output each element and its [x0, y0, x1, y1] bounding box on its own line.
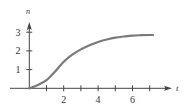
y-tick-label: 3	[16, 27, 21, 38]
x-tick-label: 6	[130, 94, 135, 105]
x-tick-label: 2	[61, 94, 66, 105]
y-tick-label: 1	[16, 64, 21, 75]
y-axis-label: n	[26, 7, 30, 16]
x-axis-label: t	[176, 83, 179, 93]
y-tick-label: 2	[16, 45, 21, 56]
series-line	[29, 35, 153, 88]
data-series	[29, 35, 153, 88]
x-tick-label: 4	[96, 94, 101, 105]
chart: 246 123 t n	[0, 0, 187, 111]
